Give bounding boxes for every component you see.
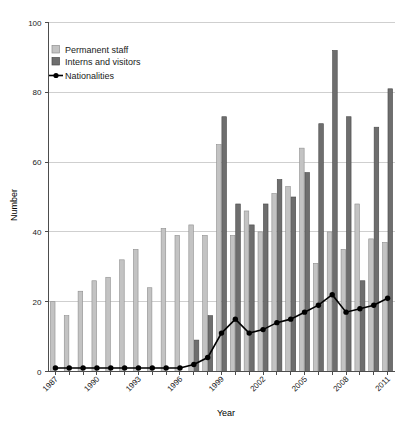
- nationalities-line: [53, 292, 391, 371]
- bar-permanent-staff: [147, 288, 152, 372]
- y-axis-ticks: 020406080100: [28, 19, 48, 377]
- nationalities-data-point: [80, 365, 85, 370]
- y-axis-title: Number: [9, 189, 19, 221]
- bar-permanent-staff: [175, 235, 180, 371]
- bar-interns-visitors: [277, 180, 282, 372]
- chart-container: 020406080100 198719901993199619992002200…: [0, 0, 404, 426]
- bar-permanent-staff: [203, 235, 208, 371]
- bar-interns-visitors: [236, 204, 241, 372]
- nationalities-data-point: [330, 292, 335, 297]
- bar-permanent-staff: [189, 225, 194, 372]
- nationalities-data-point: [205, 355, 210, 360]
- legend-label-permanent-staff: Permanent staff: [65, 45, 129, 55]
- nationalities-data-point: [316, 302, 321, 307]
- statistics-bar-line-chart: 020406080100 198719901993199619992002200…: [0, 0, 404, 426]
- nationalities-data-point: [53, 365, 58, 370]
- nationalities-data-point: [67, 365, 72, 370]
- nationalities-data-point: [136, 365, 141, 370]
- bar-permanent-staff: [272, 194, 277, 372]
- bar-permanent-staff: [161, 228, 166, 371]
- nationalities-data-point: [108, 365, 113, 370]
- x-tick-label: 2008: [332, 374, 351, 393]
- bar-permanent-staff: [258, 232, 263, 372]
- nationalities-data-point: [233, 316, 238, 321]
- y-tick-label: 80: [33, 88, 42, 97]
- bar-permanent-staff: [244, 211, 249, 372]
- bar-interns-visitors: [208, 316, 213, 372]
- bar-permanent-staff: [300, 148, 305, 371]
- nationalities-data-point: [94, 365, 99, 370]
- legend-swatch-interns-visitors: [52, 58, 60, 66]
- x-tick-label: 1996: [165, 374, 184, 393]
- nationalities-data-point: [219, 330, 224, 335]
- bar-interns-visitors: [333, 50, 338, 371]
- nationalities-data-point: [357, 306, 362, 311]
- x-tick-label: 2002: [248, 374, 267, 393]
- bar-permanent-staff: [92, 281, 97, 372]
- bar-permanent-staff: [286, 187, 291, 372]
- bar-permanent-staff: [64, 316, 69, 372]
- x-tick-label: 2005: [290, 374, 309, 393]
- nationalities-data-point: [288, 316, 293, 321]
- nationalities-data-point: [343, 309, 348, 314]
- bar-interns-visitors: [263, 204, 268, 372]
- bar-permanent-staff: [313, 263, 318, 371]
- bar-permanent-staff: [327, 232, 332, 372]
- x-axis-ticks: 198719901993199619992002200520082011: [41, 372, 392, 394]
- legend-swatch-permanent-staff: [52, 46, 60, 54]
- legend-label-nationalities: Nationalities: [65, 71, 115, 81]
- bar-permanent-staff: [133, 249, 138, 371]
- y-tick-label: 100: [28, 19, 42, 28]
- nationalities-data-point: [122, 365, 127, 370]
- nationalities-data-point: [371, 302, 376, 307]
- nationalities-data-point: [260, 327, 265, 332]
- x-axis-title: Year: [217, 408, 235, 418]
- bar-interns-visitors: [319, 124, 324, 372]
- x-tick-label: 1990: [82, 374, 101, 393]
- nationalities-data-point: [163, 365, 168, 370]
- nationalities-data-point: [302, 309, 307, 314]
- bar-permanent-staff: [78, 291, 83, 371]
- legend-marker-nationalities: [49, 73, 63, 78]
- bar-interns-visitors: [291, 197, 296, 372]
- bar-permanent-staff: [50, 302, 55, 372]
- nationalities-data-point: [274, 320, 279, 325]
- x-tick-label: 1987: [41, 374, 60, 393]
- y-tick-label: 0: [37, 368, 42, 377]
- bar-permanent-staff: [230, 235, 235, 371]
- bar-interns-visitors: [250, 225, 255, 372]
- nationalities-data-point: [177, 365, 182, 370]
- legend-label-interns-visitors: Interns and visitors: [65, 57, 141, 67]
- x-tick-label: 1999: [207, 374, 226, 393]
- x-tick-label: 2011: [373, 374, 392, 393]
- bar-permanent-staff: [120, 260, 125, 372]
- nationalities-data-point: [191, 362, 196, 367]
- bar-permanent-staff: [383, 242, 388, 371]
- chart-legend: Permanent staff Interns and visitors Nat…: [49, 45, 141, 81]
- bar-interns-visitors: [360, 281, 365, 372]
- y-tick-label: 20: [33, 298, 42, 307]
- nationalities-data-point: [150, 365, 155, 370]
- y-tick-label: 40: [33, 228, 42, 237]
- bar-permanent-staff: [106, 277, 111, 371]
- y-tick-label: 60: [33, 158, 42, 167]
- bar-permanent-staff: [355, 204, 360, 372]
- x-tick-label: 1993: [124, 374, 143, 393]
- interns-visitors-bars: [194, 50, 392, 371]
- bar-interns-visitors: [388, 89, 393, 372]
- bar-interns-visitors: [374, 127, 379, 371]
- nationalities-data-point: [385, 296, 390, 301]
- nationalities-data-point: [246, 330, 251, 335]
- bar-interns-visitors: [305, 173, 310, 372]
- bar-interns-visitors: [346, 117, 351, 372]
